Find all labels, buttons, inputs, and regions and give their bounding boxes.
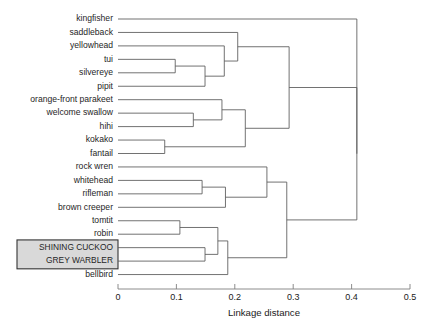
leaf-label: fantail (90, 148, 113, 158)
axis-tick-label: 0.4 (345, 292, 358, 302)
leaf-label: orange-front parakeet (30, 94, 113, 104)
axis-title: Linkage distance (228, 307, 300, 318)
leaf-label: SHINING CUCKOO (39, 242, 113, 252)
axis-tick-label: 0.2 (229, 292, 242, 302)
leaf-label: pipit (97, 81, 113, 91)
leaf-label: brown creeper (58, 202, 113, 212)
leaf-label: whitehead (73, 175, 113, 185)
dendrogram-links-layer (118, 19, 357, 275)
leaf-label: hihi (100, 121, 113, 131)
leaf-label: tomtit (92, 215, 114, 225)
leaf-label: robin (94, 228, 113, 238)
leaf-label: silvereye (79, 67, 113, 77)
leaf-label: GREY WARBLER (46, 255, 113, 265)
leaf-label: bellbird (85, 269, 113, 279)
leaf-label: yellowhead (70, 40, 113, 50)
leaf-label: kingfisher (76, 13, 113, 23)
axis-tick-label: 0.3 (287, 292, 300, 302)
dendrogram-figure: kingfishersaddlebackyellowheadtuisilvere… (0, 0, 425, 327)
leaf-label: saddleback (70, 27, 114, 37)
leaf-label: kokako (86, 134, 113, 144)
leaf-labels-layer: kingfishersaddlebackyellowheadtuisilvere… (30, 13, 113, 279)
axis-tick-label: 0.1 (170, 292, 183, 302)
axis-tick-label: 0 (115, 292, 120, 302)
leaf-label: welcome swallow (46, 107, 114, 117)
x-axis: 00.10.20.30.40.5Linkage distance (115, 284, 416, 318)
axis-tick-label: 0.5 (404, 292, 417, 302)
leaf-label: rifleman (82, 188, 113, 198)
leaf-label: rock wren (76, 161, 113, 171)
leaf-label: tui (104, 54, 113, 64)
